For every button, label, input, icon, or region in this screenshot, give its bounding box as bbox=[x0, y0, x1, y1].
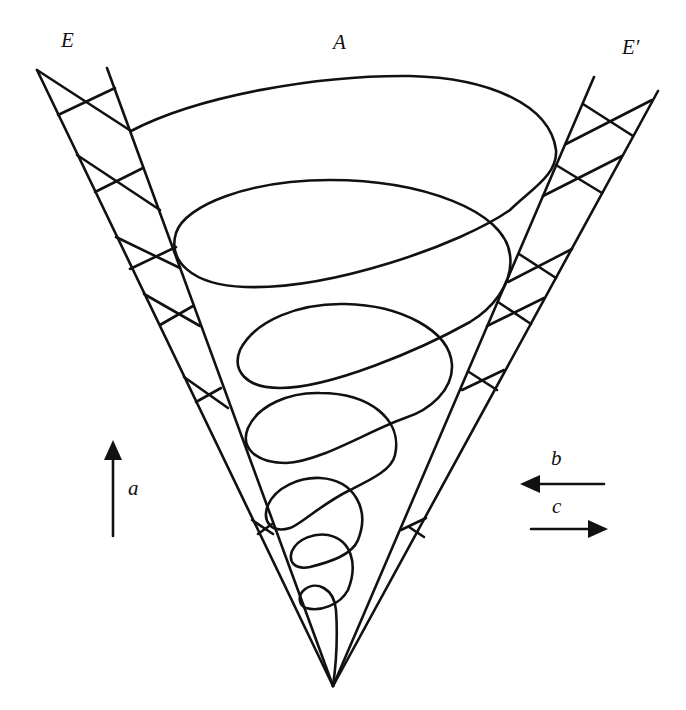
vortex-spiral bbox=[131, 76, 556, 686]
label-arrow-a: a bbox=[128, 478, 139, 499]
right-wall-braces bbox=[401, 100, 652, 537]
left-wall-inner-line bbox=[107, 68, 333, 686]
left-wall-braces bbox=[37, 70, 273, 534]
left-lattice-wall bbox=[37, 68, 333, 686]
arrow-a-up bbox=[104, 440, 122, 536]
arrow-b-left bbox=[520, 475, 604, 493]
right-wall-inner-line bbox=[333, 77, 594, 686]
label-arrow-c: c bbox=[552, 496, 561, 517]
label-right-wall-E-prime: E′ bbox=[622, 37, 639, 58]
arrow-c-right bbox=[531, 520, 608, 538]
label-left-wall-E: E bbox=[61, 30, 74, 51]
vortex-cone-diagram bbox=[0, 0, 686, 710]
label-axis-A: A bbox=[333, 32, 346, 53]
right-lattice-wall bbox=[333, 77, 658, 686]
label-arrow-b: b bbox=[551, 448, 562, 469]
